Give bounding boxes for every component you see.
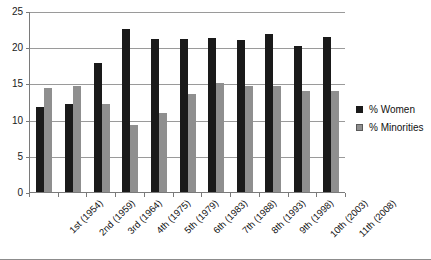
bar-minorities bbox=[102, 104, 110, 192]
bar-group bbox=[202, 12, 231, 192]
bar-group bbox=[145, 12, 174, 192]
black-square-marker-icon bbox=[356, 106, 363, 113]
x-axis-tickmark bbox=[58, 193, 59, 197]
legend-item[interactable]: % Minorities bbox=[356, 122, 423, 133]
x-axis-tickmark bbox=[86, 193, 87, 197]
bar-women bbox=[36, 107, 44, 192]
bar-women bbox=[180, 39, 188, 192]
bar-group bbox=[288, 12, 317, 192]
x-axis-tickmark bbox=[144, 193, 145, 197]
x-axis-tickmark bbox=[173, 193, 174, 197]
legend-item-label: % Women bbox=[369, 105, 415, 115]
bar-minorities bbox=[73, 86, 81, 192]
bar-minorities bbox=[216, 83, 224, 192]
bar-group bbox=[259, 12, 288, 192]
x-axis-tickmark bbox=[288, 193, 289, 197]
bars-layer bbox=[30, 12, 345, 192]
bar-group bbox=[87, 12, 116, 192]
bar-group bbox=[230, 12, 259, 192]
legend-item[interactable]: % Women bbox=[356, 104, 423, 115]
x-axis-tickmark bbox=[230, 193, 231, 197]
x-axis-tickmark bbox=[259, 193, 260, 197]
bar-minorities bbox=[44, 88, 52, 192]
bar-women bbox=[151, 39, 159, 192]
bar-women bbox=[122, 29, 130, 192]
bar-group bbox=[173, 12, 202, 192]
bar-group bbox=[116, 12, 145, 192]
bar-women bbox=[208, 38, 216, 192]
x-axis-labels: 1st (1954)2nd (1959)3rd (1964)4th (1975)… bbox=[29, 198, 345, 254]
bar-women bbox=[265, 34, 273, 192]
bar-women bbox=[94, 63, 102, 192]
y-axis-tick-label: 20 bbox=[12, 43, 23, 53]
bar-women bbox=[65, 104, 73, 192]
y-axis-tick-label: 0 bbox=[17, 188, 23, 198]
bar-group bbox=[30, 12, 59, 192]
bar-group bbox=[316, 12, 345, 192]
x-axis-tickmark bbox=[316, 193, 317, 197]
gray-square-marker-icon bbox=[356, 124, 363, 131]
bar-minorities bbox=[245, 86, 253, 192]
plot-area: 0510152025 bbox=[29, 12, 345, 193]
bar-minorities bbox=[130, 125, 138, 192]
bar-group bbox=[59, 12, 88, 192]
bar-minorities bbox=[188, 94, 196, 192]
bar-women bbox=[323, 37, 331, 192]
chart-legend: % Women% Minorities bbox=[356, 104, 423, 140]
bar-women bbox=[237, 40, 245, 192]
x-axis-tickmark bbox=[201, 193, 202, 197]
chart-container: 0510152025 1st (1954)2nd (1959)3rd (1964… bbox=[0, 0, 431, 260]
bar-minorities bbox=[331, 91, 339, 192]
bar-minorities bbox=[159, 113, 167, 192]
x-axis-tickmark bbox=[115, 193, 116, 197]
bar-women bbox=[294, 46, 302, 192]
bar-minorities bbox=[273, 86, 281, 192]
x-axis-tickmark bbox=[29, 193, 30, 197]
y-axis-tick-label: 25 bbox=[12, 7, 23, 17]
y-axis-tick-label: 15 bbox=[12, 79, 23, 89]
y-axis-tick-label: 10 bbox=[12, 116, 23, 126]
legend-item-label: % Minorities bbox=[369, 123, 423, 133]
y-axis-tick-label: 5 bbox=[17, 152, 23, 162]
bar-minorities bbox=[302, 91, 310, 192]
x-axis-tickmark bbox=[345, 193, 346, 197]
